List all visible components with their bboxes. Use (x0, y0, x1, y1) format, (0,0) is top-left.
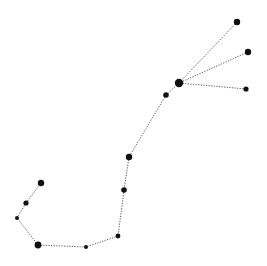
constellation-line (179, 52, 248, 83)
constellation-line (179, 83, 246, 89)
constellation-line (38, 245, 86, 247)
star-s10 (35, 242, 42, 249)
star-s6 (126, 154, 132, 160)
constellation-line (17, 203, 26, 218)
constellation-line (26, 183, 41, 203)
star-s2 (245, 49, 251, 55)
constellation-diagram (0, 0, 267, 266)
star-s13 (38, 180, 44, 186)
constellation-line (179, 22, 237, 83)
star-s1 (234, 19, 240, 25)
star-s12 (23, 200, 28, 205)
star-s8 (116, 234, 121, 239)
star-s4 (243, 86, 248, 91)
constellation-lines (17, 22, 248, 247)
star-s5 (163, 92, 169, 98)
constellation-line (118, 190, 124, 236)
star-s11 (15, 216, 19, 220)
constellation-line (124, 157, 129, 190)
constellation-line (129, 95, 166, 157)
star-s9 (84, 245, 88, 249)
star-s3 (175, 79, 183, 87)
constellation-line (17, 218, 38, 245)
constellation-line (86, 236, 118, 247)
star-s7 (121, 187, 127, 193)
constellation-stars (15, 19, 251, 249)
